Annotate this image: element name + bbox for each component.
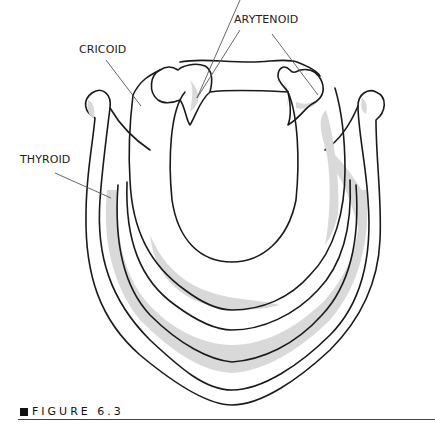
arytenoid-leader-right — [272, 34, 318, 95]
label-thyroid: THYROID — [20, 153, 70, 166]
arytenoid-leader-left-2 — [197, 30, 240, 98]
caption-square-bullet-icon — [20, 408, 28, 416]
label-cricoid: CRICOID — [79, 43, 126, 56]
cricoid-cartilage — [127, 70, 350, 330]
arytenoid-cartilages — [151, 60, 323, 262]
figure-caption-text: FIGURE 6.3 — [32, 406, 124, 418]
cricoid-leader — [106, 60, 141, 106]
figure-caption: FIGURE 6.3 — [20, 404, 124, 418]
larynx-cartilage-illustration — [0, 0, 435, 425]
caption-rule — [18, 419, 435, 420]
label-arytenoid: ARYTENOID — [234, 13, 298, 26]
